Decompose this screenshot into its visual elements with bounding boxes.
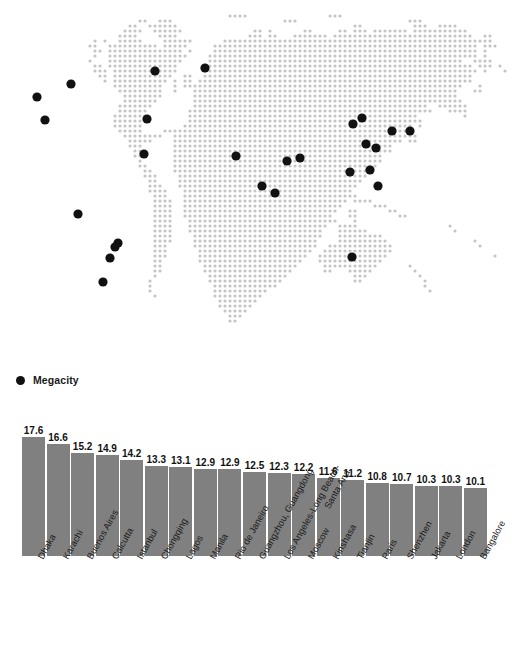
megacity-marker [357, 113, 366, 122]
bar-value-label: 13.3 [143, 454, 170, 465]
megacity-marker [347, 252, 356, 261]
bar-value-label: 12.3 [266, 461, 293, 472]
category-axis-labels: DhakaKarachiBuenos AiresCalcuttaIstanbul… [0, 556, 532, 671]
bar-value-label: 16.6 [45, 432, 72, 443]
filled-circle-icon [16, 376, 25, 385]
bar-value-label: 10.8 [364, 471, 391, 482]
megacity-marker [361, 139, 370, 148]
bar-value-label: 10.7 [388, 472, 415, 483]
world-map-panel [0, 0, 532, 358]
megacity-marker [113, 238, 122, 247]
megacity-marker [373, 181, 382, 190]
megacity-marker [40, 115, 49, 124]
megacity-marker [150, 66, 159, 75]
bar-group: 10.7 [390, 420, 413, 556]
megacity-marker [105, 253, 114, 262]
megacity-marker [139, 149, 148, 158]
bar-value-label: 10.3 [413, 474, 440, 485]
megacity-markers-layer [0, 0, 532, 358]
megacity-marker [98, 277, 107, 286]
megacity-marker [73, 209, 82, 218]
megacity-marker [405, 126, 414, 135]
megacity-marker [32, 92, 41, 101]
megacity-marker [200, 63, 209, 72]
megacity-marker [345, 167, 354, 176]
legend-label-megacity: Megacity [33, 374, 79, 386]
bar-value-label: 14.9 [94, 443, 121, 454]
megacity-marker [348, 119, 357, 128]
bar-value-label: 10.1 [462, 476, 489, 487]
megacity-marker [282, 156, 291, 165]
megacity-population-bar-chart: 17.616.615.214.914.213.313.112.912.912.5… [0, 420, 532, 671]
megacity-marker [365, 165, 374, 174]
megacity-marker [231, 151, 240, 160]
megacity-marker [387, 126, 396, 135]
bar-value-label: 13.1 [167, 455, 194, 466]
megacity-marker [295, 153, 304, 162]
megacity-marker [257, 181, 266, 190]
bar-rect[interactable] [22, 437, 45, 556]
megacity-marker [142, 114, 151, 123]
bar-value-label: 14.2 [118, 448, 145, 459]
megacity-marker [371, 143, 380, 152]
bar-value-label: 12.9 [216, 457, 243, 468]
bar-value-label: 17.6 [20, 425, 47, 436]
bar-value-label: 12.5 [241, 460, 268, 471]
map-legend: Megacity [16, 370, 79, 390]
bar-value-label: 15.2 [69, 441, 96, 452]
megacity-marker [66, 79, 75, 88]
megacity-marker [270, 188, 279, 197]
bar-value-label: 10.3 [437, 474, 464, 485]
bar-group: 17.6 [22, 420, 45, 556]
bar-value-label: 12.9 [192, 457, 219, 468]
